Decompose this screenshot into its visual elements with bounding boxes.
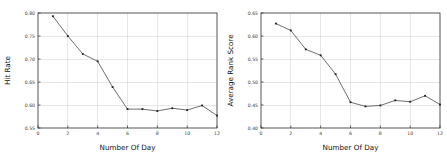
gridlines-group [38, 13, 217, 128]
y-tick-label: 0.65 [248, 11, 258, 16]
x-tick-label: 2 [289, 131, 292, 136]
y-tick-label: 0.55 [248, 57, 258, 62]
y-axis-title: Average Rank Score [226, 34, 235, 107]
data-point-marker [290, 30, 292, 32]
y-tick-label: 0.60 [25, 103, 35, 108]
x-tick-label: 0 [37, 131, 40, 136]
y-axis-title: Hit Rate [3, 55, 12, 85]
data-markers-group [275, 23, 441, 108]
x-tick-label: 6 [126, 131, 129, 136]
data-point-marker [127, 108, 129, 110]
data-point-marker [365, 105, 367, 107]
data-point-marker [52, 15, 54, 17]
chart-panel-hit-rate: 0246810120.550.600.650.700.750.80Number … [0, 0, 223, 167]
y-tick-label: 0.75 [25, 34, 35, 39]
data-point-marker [379, 105, 381, 107]
data-series-line [53, 16, 217, 115]
x-tick-label: 12 [437, 131, 443, 136]
data-point-marker [112, 86, 114, 88]
chart-panel-average-rank-score: 0246810120.400.450.500.550.600.65Number … [223, 0, 446, 167]
x-tick-label: 8 [156, 131, 159, 136]
data-point-marker [320, 54, 322, 56]
gridlines-group [261, 13, 440, 128]
x-axis-title: Number Of Day [100, 143, 157, 152]
x-tick-label: 10 [184, 131, 190, 136]
data-point-marker [186, 109, 188, 111]
data-point-marker [82, 53, 84, 55]
x-tick-label: 8 [379, 131, 382, 136]
data-point-marker [350, 101, 352, 103]
data-point-marker [424, 95, 426, 97]
y-tick-label: 0.55 [25, 126, 35, 131]
x-tick-label: 4 [319, 131, 322, 136]
data-point-marker [142, 108, 144, 110]
y-tick-label: 0.70 [25, 57, 35, 62]
data-point-marker [67, 35, 69, 37]
data-point-marker [409, 101, 411, 103]
y-tick-label: 0.80 [25, 11, 35, 16]
y-tick-label: 0.50 [248, 80, 258, 85]
y-tick-label: 0.40 [248, 126, 258, 131]
axis-ticks-group: 0246810120.400.450.500.550.600.65 [248, 11, 443, 136]
axis-ticks-group: 0246810120.550.600.650.700.750.80 [25, 11, 220, 136]
data-markers-group [52, 15, 218, 116]
x-tick-label: 4 [96, 131, 99, 136]
y-tick-label: 0.45 [248, 103, 258, 108]
x-axis-title: Number Of Day [323, 143, 380, 152]
hit-rate-line-chart: 0246810120.550.600.650.700.750.80Number … [0, 0, 223, 167]
data-point-marker [216, 115, 218, 117]
x-tick-label: 0 [260, 131, 263, 136]
data-point-marker [156, 110, 158, 112]
data-point-marker [201, 105, 203, 107]
x-tick-label: 6 [349, 131, 352, 136]
data-point-marker [439, 104, 441, 106]
data-point-marker [275, 23, 277, 25]
data-point-marker [394, 100, 396, 102]
figure-container: 0246810120.550.600.650.700.750.80Number … [0, 0, 447, 167]
data-point-marker [305, 48, 307, 50]
y-tick-label: 0.60 [248, 34, 258, 39]
data-point-marker [97, 60, 99, 62]
average-rank-score-line-chart: 0246810120.400.450.500.550.600.65Number … [223, 0, 446, 167]
data-point-marker [335, 73, 337, 75]
y-tick-label: 0.65 [25, 80, 35, 85]
data-point-marker [171, 107, 173, 109]
x-tick-label: 2 [66, 131, 69, 136]
x-tick-label: 12 [214, 131, 220, 136]
x-tick-label: 10 [407, 131, 413, 136]
